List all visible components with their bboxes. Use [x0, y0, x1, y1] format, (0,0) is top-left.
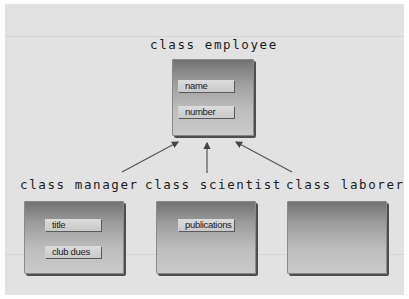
laborer-to-employee-arrow — [236, 142, 292, 172]
scientist-class-box: publications — [156, 201, 256, 274]
attribute-title: title — [45, 219, 101, 231]
manager-class-title: class manager — [20, 177, 139, 192]
attribute-club-dues: club dues — [45, 246, 101, 258]
laborer-class-title: class laborer — [286, 177, 405, 192]
scientist-class-title: class scientist — [145, 177, 282, 192]
laborer-class-box — [287, 201, 387, 274]
manager-class-box: title club dues — [24, 201, 124, 274]
attribute-publications: publications — [178, 219, 234, 231]
manager-to-employee-arrow — [122, 142, 178, 172]
